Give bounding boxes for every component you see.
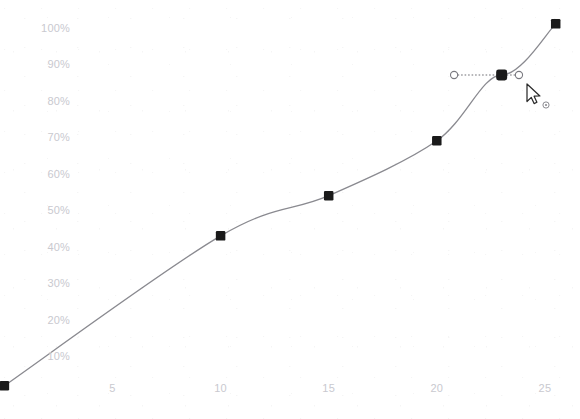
tangent-handle-right[interactable]: [515, 71, 522, 78]
tangent-handle-left[interactable]: [451, 71, 458, 78]
y-axis-tick-label: 80%: [12, 95, 70, 107]
y-axis-tick-label: 20%: [12, 314, 70, 326]
y-axis-tick-label: 90%: [12, 58, 70, 70]
curve-line[interactable]: [4, 24, 555, 386]
y-axis-tick-label: 70%: [12, 131, 70, 143]
y-axis-tick-label: 50%: [12, 204, 70, 216]
y-axis-tick-label: 10%: [12, 350, 70, 362]
curve-editor-canvas[interactable]: 10%20%30%40%50%60%70%80%90%100% 51015202…: [0, 0, 580, 419]
data-point-marker[interactable]: [551, 19, 561, 29]
y-axis-tick-label: 60%: [12, 168, 70, 180]
curve-plot[interactable]: [0, 0, 580, 419]
x-axis-tick-label: 15: [322, 382, 335, 394]
y-axis-tick-label: 40%: [12, 241, 70, 253]
x-axis-tick-label: 5: [109, 382, 115, 394]
x-axis-tick-label: 10: [214, 382, 227, 394]
y-axis-tick-label: 30%: [12, 277, 70, 289]
data-point-marker[interactable]: [0, 381, 9, 391]
y-axis-tick-label: 100%: [12, 22, 70, 34]
data-point-marker[interactable]: [432, 136, 442, 146]
data-point-marker-selected[interactable]: [496, 70, 507, 81]
data-point-marker[interactable]: [216, 231, 226, 241]
x-axis-tick-label: 25: [539, 382, 552, 394]
data-point-marker[interactable]: [324, 191, 334, 201]
x-axis-tick-label: 20: [430, 382, 443, 394]
